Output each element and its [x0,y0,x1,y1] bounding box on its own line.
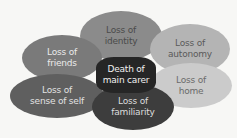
center-node-death-of-main-carer: Death of main carer [96,57,156,93]
node-label: Loss of identity [105,25,138,47]
node-label: Loss of home [176,75,206,97]
center-label: Death of main carer [103,64,150,86]
node-label: Loss of familiarity [111,96,154,118]
node-label: Loss of friends [47,47,77,69]
node-loss-of-sense-of-self: Loss of sense of self [10,74,104,118]
loss-diagram: Loss of identity Loss of friends Loss of… [0,0,237,138]
node-label: Loss of autonomy [168,38,212,60]
node-label: Loss of sense of self [30,85,84,107]
